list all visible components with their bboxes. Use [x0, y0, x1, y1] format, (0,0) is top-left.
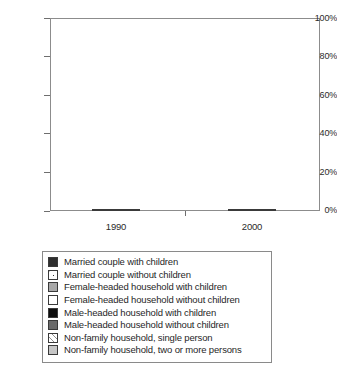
legend-item-nonfamily-single[interactable]: Non-family household, single person	[48, 332, 266, 345]
legend-box: Married couple with children Married cou…	[42, 251, 272, 363]
legend-item-married-with-children[interactable]: Married couple with children	[48, 256, 266, 269]
y-tick-mark-0	[44, 211, 50, 212]
legend-item-label: Female-headed household without children	[64, 295, 240, 305]
legend-item-label: Non-family household, two or more person…	[64, 345, 242, 355]
legend-item-nonfamily-two-or-more[interactable]: Non-family household, two or more person…	[48, 344, 266, 357]
legend-container: Married couple with children Married cou…	[0, 240, 337, 373]
legend-swatch-icon	[48, 270, 58, 280]
legend-swatch-icon	[48, 320, 58, 330]
x-tick-label-1990: 1990	[78, 222, 154, 232]
legend-item-label: Male-headed household without children	[64, 320, 229, 330]
legend-item-label: Male-headed household with children	[64, 308, 216, 318]
bars-layer	[50, 18, 320, 211]
legend-swatch-icon	[48, 345, 58, 355]
legend-swatch-icon	[48, 295, 58, 305]
segment-1990-nonfamily-two-or-more[interactable]	[92, 209, 140, 211]
legend-item-female-without-children[interactable]: Female-headed household without children	[48, 294, 266, 307]
legend-item-male-with-children[interactable]: Male-headed household with children	[48, 306, 266, 319]
legend-swatch-icon	[48, 308, 58, 318]
segment-2000-nonfamily-two-or-more[interactable]	[228, 209, 276, 211]
legend-swatch-icon	[48, 257, 58, 267]
legend-swatch-icon	[48, 282, 58, 292]
chart-container: 100% 80% 60% 40% 20% 0%	[0, 0, 337, 240]
legend-swatch-icon	[48, 333, 58, 343]
legend-item-married-without-children[interactable]: Married couple without children	[48, 269, 266, 282]
legend-item-female-with-children[interactable]: Female-headed household with children	[48, 281, 266, 294]
x-tick-label-2000: 2000	[214, 222, 290, 232]
legend-item-male-without-children[interactable]: Male-headed household without children	[48, 319, 266, 332]
x-tick-mark-mid	[185, 211, 186, 216]
legend-item-label: Married couple without children	[64, 270, 191, 280]
legend-item-label: Married couple with children	[64, 257, 178, 267]
legend-item-label: Non-family household, single person	[64, 333, 212, 343]
legend-item-label: Female-headed household with children	[64, 282, 227, 292]
